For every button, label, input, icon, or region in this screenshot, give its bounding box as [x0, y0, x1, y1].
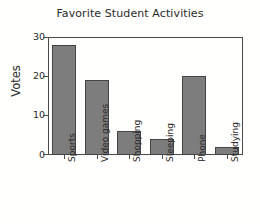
- y-axis-label: Votes: [9, 51, 23, 111]
- bar-chart-figure: Favorite Student Activities Votes 30 20 …: [0, 0, 260, 224]
- y-tick-label-20: 20: [21, 71, 45, 81]
- y-tick-label-30: 30: [21, 32, 45, 42]
- x-tick-mark-video-games: [97, 155, 98, 159]
- x-axis-label-sleeping: Sleeping: [166, 123, 175, 162]
- x-tick-mark-studying: [227, 155, 228, 159]
- x-axis-label-sports: Sports: [68, 133, 77, 162]
- y-tick-label-0: 0: [21, 150, 45, 160]
- x-axis-label-phone: Phone: [198, 134, 207, 162]
- x-tick-mark-shopping: [129, 155, 130, 159]
- x-axis-label-video-games: Video games: [101, 104, 110, 162]
- x-tick-mark-phone: [194, 155, 195, 159]
- bars-layer: [48, 37, 243, 155]
- y-tick-label-10: 10: [21, 110, 45, 120]
- x-tick-mark-sleeping: [162, 155, 163, 159]
- x-tick-mark-sports: [64, 155, 65, 159]
- x-axis-label-studying: Studying: [231, 122, 240, 162]
- chart-title: Favorite Student Activities: [0, 7, 260, 20]
- x-axis-label-shopping: Shopping: [133, 120, 142, 162]
